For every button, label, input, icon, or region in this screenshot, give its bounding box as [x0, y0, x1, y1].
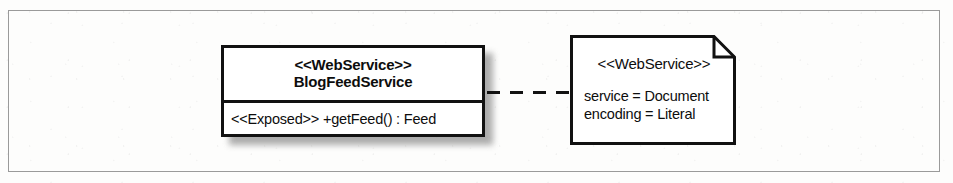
class-operation-getfeed: <<Exposed>> +getFeed() : Feed [231, 111, 436, 127]
class-name: BlogFeedService [294, 74, 413, 91]
class-header-compartment: <<WebService>> BlogFeedService [224, 48, 482, 103]
note-tagged-value-encoding: encoding = Literal [584, 106, 724, 124]
note-stereotype: <<WebService>> [584, 55, 724, 72]
uml-diagram-figure: <<WebService>> BlogFeedService <<Exposed… [0, 0, 953, 183]
note-content: <<WebService>> service = Document encodi… [570, 35, 736, 145]
note-webservice-tagged-values[interactable]: <<WebService>> service = Document encodi… [570, 35, 736, 145]
dependency-dashed-connector [487, 91, 571, 94]
class-box-blogfeedservice[interactable]: <<WebService>> BlogFeedService <<Exposed… [221, 45, 485, 137]
class-operations-compartment: <<Exposed>> +getFeed() : Feed [224, 103, 482, 134]
class-stereotype: <<WebService>> [294, 57, 411, 74]
note-tagged-value-service: service = Document [584, 88, 724, 106]
